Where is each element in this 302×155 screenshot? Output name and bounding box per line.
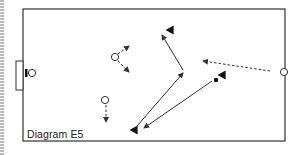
diagram-caption: Diagram E5 [27,128,83,140]
player-circle-icon [111,53,118,60]
player-triangle-icon [218,71,226,80]
keeper-bar [25,69,28,77]
player-circle-icon [280,68,287,75]
dashed-arrow-icon [118,61,129,72]
solid-arrow-icon [137,73,183,126]
solid-arrow-icon [144,81,212,128]
player-triangle-icon [166,26,174,35]
ball-icon [214,78,218,82]
player-circle-icon [101,96,108,103]
goal-box [16,61,23,90]
player-circle-icon [28,69,35,76]
solid-arrow-icon [162,35,183,70]
dashed-arrow-icon [203,61,270,71]
dashed-arrow-icon [118,46,129,54]
player-triangle-icon [130,126,138,135]
